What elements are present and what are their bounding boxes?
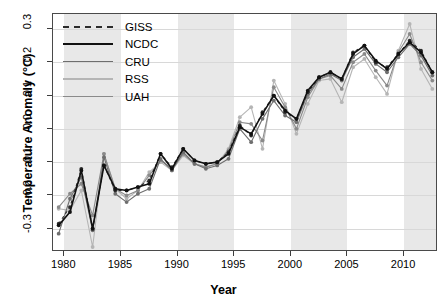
data-point (147, 182, 151, 186)
legend-label: CRU (113, 56, 150, 68)
data-point (340, 87, 344, 91)
data-point (419, 67, 423, 71)
data-point (159, 152, 163, 156)
data-point (68, 197, 72, 201)
x-axis-title: Year (0, 283, 447, 297)
data-point (193, 162, 197, 166)
data-point (283, 109, 287, 113)
legend-label: NCDC (113, 38, 158, 50)
legend: GISS NCDC CRU RSS UAH (63, 18, 181, 106)
data-point (363, 52, 367, 56)
data-point (340, 100, 344, 104)
data-point (430, 79, 434, 83)
data-point (430, 74, 434, 78)
legend-label: RSS (113, 73, 149, 85)
x-tick-mark (346, 251, 347, 256)
data-point (329, 70, 333, 74)
data-point (408, 22, 412, 26)
data-point (91, 245, 95, 249)
data-point (215, 164, 219, 168)
data-point (249, 122, 253, 126)
data-point (272, 79, 276, 83)
data-point (113, 187, 117, 191)
x-tick-mark (120, 251, 121, 256)
legend-item-cru: CRU (63, 53, 181, 71)
x-tick-label: 2000 (278, 258, 302, 270)
y-tick-label: 0.2 (21, 47, 33, 73)
legend-item-uah: UAH (63, 88, 181, 106)
x-axis-tick-labels: 1980198519901995200020052010 (0, 256, 447, 276)
x-tick-mark (177, 251, 178, 256)
data-point (363, 57, 367, 61)
data-point (261, 147, 265, 151)
data-point (430, 87, 434, 91)
y-tick-label: 0.3 (21, 14, 33, 40)
data-point (181, 147, 185, 151)
data-point (227, 157, 231, 161)
data-point (340, 77, 344, 81)
legend-label: UAH (113, 91, 149, 103)
x-tick-mark (63, 251, 64, 256)
uah-line-swatch (63, 92, 113, 102)
x-tick-label: 1990 (164, 258, 188, 270)
data-point (125, 189, 129, 193)
data-point (374, 59, 378, 63)
data-point (113, 192, 117, 196)
data-point (408, 32, 412, 36)
data-point (136, 185, 140, 189)
data-point (238, 115, 242, 119)
x-tick-mark (233, 251, 234, 256)
data-point (193, 159, 197, 163)
data-point (227, 152, 231, 156)
data-point (396, 52, 400, 56)
data-point (419, 60, 423, 64)
y-tick-label: -0.3 (21, 214, 33, 240)
y-tick-label: -0.2 (21, 180, 33, 206)
data-point (79, 169, 83, 173)
y-tick-label: 0.0 (21, 114, 33, 140)
data-point (430, 70, 434, 74)
ncdc-line-swatch (63, 39, 113, 49)
data-point (249, 132, 253, 136)
data-point (295, 117, 299, 121)
data-point (57, 205, 61, 209)
data-point (68, 210, 72, 214)
data-point (249, 105, 253, 109)
rss-line-swatch (63, 74, 113, 84)
x-tick-label: 2005 (334, 258, 358, 270)
data-point (91, 227, 95, 231)
y-tick-label: -0.1 (21, 147, 33, 173)
legend-label: GISS (113, 21, 152, 33)
data-point (385, 67, 389, 71)
x-tick-mark (290, 251, 291, 256)
data-point (419, 50, 423, 54)
data-point (204, 162, 208, 166)
x-tick-label: 1980 (51, 258, 75, 270)
giss-line-swatch (63, 22, 113, 32)
data-point (91, 213, 95, 217)
data-point (170, 167, 174, 171)
data-point (374, 75, 378, 79)
data-point (363, 44, 367, 48)
data-point (125, 200, 129, 204)
data-point (125, 197, 129, 201)
legend-item-giss: GISS (63, 18, 181, 36)
data-point (102, 164, 106, 168)
x-tick-label: 1995 (221, 258, 245, 270)
data-point (261, 112, 265, 116)
legend-item-rss: RSS (63, 71, 181, 89)
chart-figure: Temperature Anomaly (°C) Year -0.3-0.2-0… (0, 0, 447, 304)
data-point (204, 167, 208, 171)
cru-line-swatch (63, 57, 113, 67)
data-point (102, 155, 106, 159)
data-point (215, 160, 219, 164)
x-tick-mark (403, 251, 404, 256)
data-point (57, 223, 61, 227)
data-point (351, 52, 355, 56)
data-point (249, 140, 253, 144)
data-point (295, 132, 299, 136)
x-axis-tick-marks (0, 251, 447, 257)
data-point (295, 120, 299, 124)
data-point (136, 189, 140, 193)
legend-item-ncdc: NCDC (63, 36, 181, 54)
